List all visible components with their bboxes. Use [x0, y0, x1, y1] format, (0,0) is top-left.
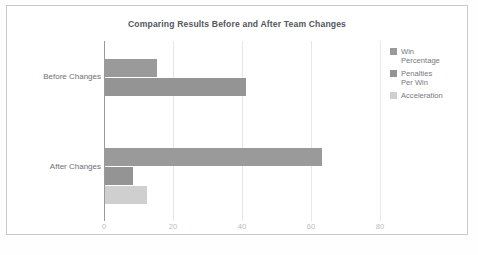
chart-legend: Win Percentage Penalties Per Win Acceler… — [390, 47, 468, 103]
chart-title: Comparing Results Before and After Team … — [7, 19, 467, 29]
legend-label-acceleration: Acceleration — [401, 91, 468, 100]
category-label-after-changes: After Changes — [50, 162, 101, 171]
legend-swatch-penalties-per-win-icon — [390, 70, 397, 77]
gridline-80 — [380, 41, 381, 221]
x-axis-tick-labels: 0 20 40 60 80 — [104, 222, 381, 234]
plot-area — [104, 41, 381, 221]
x-tick-label-80: 80 — [376, 222, 384, 231]
gridline-40 — [242, 41, 243, 221]
y-axis-category-labels: Before Changes After Changes — [7, 41, 101, 221]
legend-item-penalties-per-win: Penalties Per Win — [390, 69, 468, 88]
gridline-20 — [173, 41, 174, 221]
x-tick-label-40: 40 — [238, 222, 246, 231]
legend-swatch-acceleration-icon — [390, 92, 397, 99]
bar-after-penalties-per-win — [105, 167, 133, 185]
x-tick-label-20: 20 — [169, 222, 177, 231]
x-tick-label-0: 0 — [102, 222, 106, 231]
x-tick-label-60: 60 — [307, 222, 315, 231]
legend-item-win-percentage: Win Percentage — [390, 47, 468, 66]
scanned-page: Comparing Results Before and After Team … — [0, 0, 478, 255]
legend-item-acceleration: Acceleration — [390, 91, 468, 100]
bar-before-penalties-per-win — [105, 78, 246, 96]
bar-after-acceleration — [105, 186, 147, 204]
legend-label-win-percentage: Win Percentage — [401, 47, 468, 66]
gridline-60 — [311, 41, 312, 221]
figure-caption — [8, 243, 338, 255]
legend-label-penalties-per-win: Penalties Per Win — [401, 69, 468, 88]
bar-before-win-percentage — [105, 59, 157, 77]
bar-after-win-percentage — [105, 148, 322, 166]
chart-frame: Comparing Results Before and After Team … — [6, 5, 468, 235]
legend-swatch-win-percentage-icon — [390, 48, 397, 55]
category-label-before-changes: Before Changes — [43, 72, 101, 81]
